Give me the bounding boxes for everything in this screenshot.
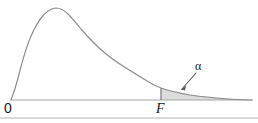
alpha-leader-line [182,73,197,90]
f-distribution-figure: 0 F α [0,0,258,123]
figure-canvas [0,0,258,123]
density-curve [11,8,252,100]
tail-area-alpha-label: α [195,60,201,73]
critical-value-label: F [156,102,165,115]
origin-label: 0 [4,102,12,115]
shaded-tail-region [161,88,252,100]
